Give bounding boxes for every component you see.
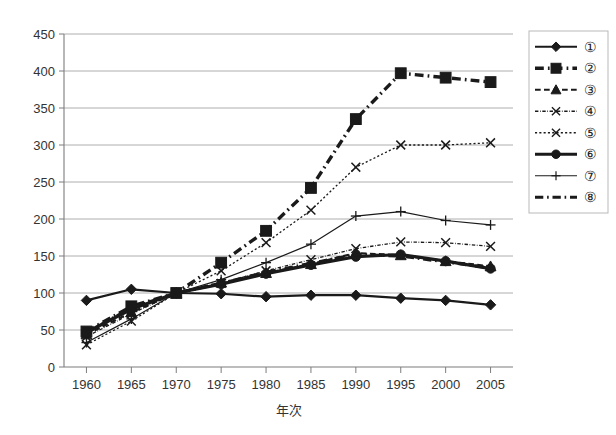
x-tick-label: 1960 <box>72 377 101 392</box>
series-line <box>86 253 490 334</box>
x-tick-label: 1990 <box>341 377 370 392</box>
data-point-square <box>306 183 317 194</box>
legend-label: ① <box>584 39 597 55</box>
legend: ①②③④⑤⑥⑦⑧ <box>529 31 608 213</box>
legend-label: ③ <box>584 82 597 98</box>
series-line <box>86 143 490 345</box>
legend-label: ⑤ <box>584 125 597 141</box>
legend-label: ⑦ <box>584 168 597 184</box>
chart-canvas: 0501001502002503003504004501960196519701… <box>0 0 616 435</box>
data-point-square <box>261 225 272 236</box>
data-point-square <box>350 114 361 125</box>
tick-labels: 0501001502002503003504004501960196519701… <box>33 27 505 392</box>
y-tick-label: 250 <box>33 175 55 190</box>
y-tick-label: 300 <box>33 138 55 153</box>
legend-label: ② <box>584 60 597 76</box>
x-tick-label: 1975 <box>207 377 236 392</box>
y-tick-label: 100 <box>33 286 55 301</box>
legend-label: ④ <box>584 103 597 119</box>
x-tick-label: 2000 <box>431 377 460 392</box>
data-point-square <box>485 77 496 88</box>
data-point-square <box>440 72 451 83</box>
data-point-diamond <box>306 290 316 300</box>
y-tick-label: 400 <box>33 64 55 79</box>
data-point-circle <box>552 150 560 158</box>
data-point-square <box>551 63 561 73</box>
x-tick-label: 1965 <box>117 377 146 392</box>
legend-label: ⑥ <box>584 146 597 162</box>
y-tick-label: 0 <box>48 360 55 375</box>
series-line <box>86 255 490 333</box>
data-point-diamond <box>485 300 495 310</box>
series-7 <box>81 207 495 348</box>
y-tick-label: 450 <box>33 27 55 42</box>
x-tick-label: 1980 <box>252 377 281 392</box>
data-point-diamond <box>396 293 406 303</box>
data-point-diamond <box>216 289 226 299</box>
x-tick-label: 1985 <box>296 377 325 392</box>
legend-box <box>529 31 608 213</box>
x-tick-label: 1995 <box>386 377 415 392</box>
data-point-diamond <box>81 295 91 305</box>
y-tick-label: 350 <box>33 101 55 116</box>
y-tick-label: 50 <box>41 323 55 338</box>
series-group <box>81 68 496 349</box>
y-tick-label: 200 <box>33 212 55 227</box>
data-point-diamond <box>440 295 450 305</box>
data-point-diamond <box>351 290 361 300</box>
y-tick-label: 150 <box>33 249 55 264</box>
series-8 <box>86 255 490 333</box>
line-chart: 0501001502002503003504004501960196519701… <box>0 0 616 435</box>
legend-label: ⑧ <box>584 189 597 205</box>
series-line <box>86 212 490 343</box>
data-point-square <box>395 68 406 79</box>
x-axis-title: 年次 <box>276 403 302 418</box>
x-tick-label: 1970 <box>162 377 191 392</box>
series-5 <box>82 138 495 349</box>
x-tick-label: 2005 <box>476 377 505 392</box>
axes <box>59 34 513 373</box>
